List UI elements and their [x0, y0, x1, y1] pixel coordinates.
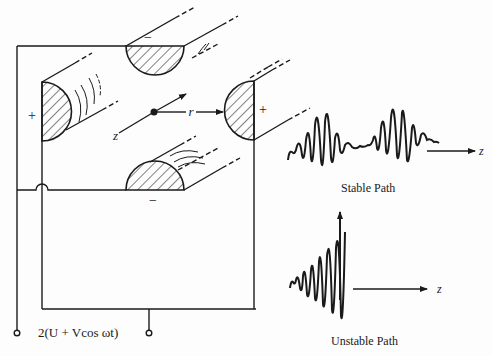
stable-path-caption: Stable Path	[341, 181, 395, 195]
r-axis-label: r	[188, 104, 194, 119]
quadrupole-diagram: − − + + z r 2(U + Vcos ωt) Stable Path z…	[0, 0, 493, 356]
electrode-right	[225, 59, 311, 140]
right-polarity-label: +	[259, 102, 267, 117]
stable-path-waveform	[288, 110, 439, 166]
unstable-path-caption: Unstable Path	[331, 334, 398, 348]
unstable-path-waveform	[290, 212, 345, 318]
electrode-bottom	[126, 136, 240, 190]
stable-z-label: z	[478, 144, 484, 158]
bottom-polarity-label: −	[149, 193, 157, 208]
origin-dot-icon	[151, 109, 158, 116]
top-polarity-label: −	[144, 30, 152, 45]
terminal-left-icon	[14, 330, 20, 336]
terminal-right-icon	[146, 330, 152, 336]
electrode-top	[126, 7, 238, 75]
voltage-label: 2(U + Vcos ωt)	[38, 325, 118, 340]
unstable-z-label: z	[436, 282, 442, 296]
z-axis-label: z	[112, 128, 118, 143]
electrode-left	[42, 53, 118, 141]
left-polarity-label: +	[28, 108, 36, 123]
